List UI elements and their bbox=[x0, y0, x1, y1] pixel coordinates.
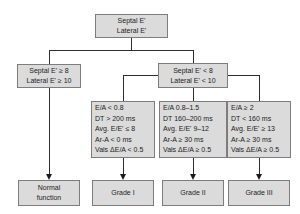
node-grade-2: Grade II bbox=[162, 180, 224, 206]
criteria-line: E/A ≥ 2 bbox=[231, 103, 254, 113]
node-text-line: Lateral E' bbox=[117, 26, 146, 36]
node-septal-lateral-e-prime: Septal E' Lateral E' bbox=[95, 14, 168, 38]
criteria-line: Vals ΔE/A ≥ 0.5 bbox=[163, 145, 211, 155]
connector-left-drop bbox=[49, 50, 50, 64]
connector-right-drop bbox=[193, 50, 194, 63]
criteria-line: Avg. E/E' ≤ 8 bbox=[95, 124, 135, 134]
node-normal-function: Normal function bbox=[18, 180, 80, 206]
node-text-line: Septal E' ≥ 8 bbox=[29, 66, 68, 76]
criteria-line: DT < 160 ms bbox=[231, 114, 271, 124]
node-grade2-criteria: E/A 0.8–1.5 DT 160–200 ms Avg. E/E' 9–12… bbox=[159, 101, 227, 158]
node-text-line: Normal bbox=[38, 183, 61, 193]
connector-criteria-right bbox=[228, 75, 259, 76]
node-text-line: Grade I bbox=[111, 188, 134, 198]
node-text-line: Grade II bbox=[180, 188, 205, 198]
node-text-line: Septal E' bbox=[118, 16, 146, 26]
node-text-line: Lateral E' ≥ 10 bbox=[27, 76, 72, 86]
criteria-line: Vals ΔE/A ≥ 0.5 bbox=[231, 145, 279, 155]
node-grade-1: Grade I bbox=[92, 180, 154, 206]
criteria-line: Ar-A < 0 ms bbox=[95, 135, 132, 145]
node-text-line: Grade III bbox=[245, 188, 272, 198]
node-grade1-criteria: E/A < 0.8 DT > 200 ms Avg. E/E' ≤ 8 Ar-A… bbox=[91, 101, 155, 158]
connector-criteria1-drop bbox=[123, 75, 124, 101]
connector-root-stem bbox=[131, 38, 132, 50]
connector-grade3-arrow-stem bbox=[259, 158, 260, 174]
node-grade-3: Grade III bbox=[228, 180, 290, 206]
criteria-line: Ar-A ≥ 30 ms bbox=[163, 135, 203, 145]
connector-criteria-left bbox=[123, 75, 158, 76]
criteria-line: Vals ΔE/A < 0.5 bbox=[95, 145, 143, 155]
node-text-line: Lateral E' < 10 bbox=[170, 76, 215, 86]
node-e-prime-normal: Septal E' ≥ 8 Lateral E' ≥ 10 bbox=[17, 64, 81, 88]
node-text-line: function bbox=[37, 193, 62, 203]
criteria-line: DT 160–200 ms bbox=[163, 114, 213, 124]
node-e-prime-reduced: Septal E' < 8 Lateral E' < 10 bbox=[158, 63, 228, 88]
node-grade3-criteria: E/A ≥ 2 DT < 160 ms Avg. E/E' ≥ 13 Ar-A … bbox=[227, 101, 291, 158]
connector-grade1-arrow-stem bbox=[123, 158, 124, 174]
flowchart-diastolic-grading: Septal E' Lateral E' Septal E' ≥ 8 Later… bbox=[0, 0, 300, 214]
connector-criteria3-drop bbox=[259, 75, 260, 101]
criteria-line: Avg. E/E' ≥ 13 bbox=[231, 124, 275, 134]
connector-grade2-arrow-stem bbox=[193, 158, 194, 174]
criteria-line: E/A 0.8–1.5 bbox=[163, 103, 199, 113]
criteria-line: Avg. E/E' 9–12 bbox=[163, 124, 209, 134]
connector-top-branch bbox=[49, 50, 194, 51]
node-text-line: Septal E' < 8 bbox=[173, 66, 213, 76]
criteria-line: Ar-A ≥ 30 ms bbox=[231, 135, 271, 145]
criteria-line: DT > 200 ms bbox=[95, 114, 135, 124]
connector-criteria2-drop bbox=[193, 88, 194, 101]
connector-normal-arrow-stem bbox=[49, 88, 50, 174]
criteria-line: E/A < 0.8 bbox=[95, 103, 124, 113]
